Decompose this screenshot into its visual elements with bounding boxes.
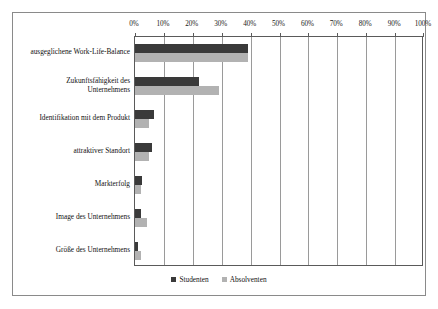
legend-swatch-icon bbox=[222, 277, 227, 282]
x-tick-label: 0% bbox=[129, 20, 138, 28]
x-axis-tick-labels: 0%10%20%30%40%50%60%70%80%90%100% bbox=[134, 20, 423, 34]
x-tick-label: 20% bbox=[185, 20, 198, 28]
bar-absolventen bbox=[135, 251, 141, 260]
legend-label: Absolventen bbox=[230, 275, 267, 284]
x-tick-label: 10% bbox=[156, 20, 169, 28]
bar-studenten bbox=[135, 44, 248, 53]
x-tick-label: 90% bbox=[388, 20, 401, 28]
category-label: Zukunftsfähigkeit des Unternehmens bbox=[23, 76, 130, 95]
x-tickmark bbox=[423, 33, 424, 37]
x-tick-label: 80% bbox=[359, 20, 372, 28]
legend-swatch-icon bbox=[171, 277, 176, 282]
bar-studenten bbox=[135, 242, 138, 251]
bar-absolventen bbox=[135, 218, 147, 227]
bar-rows bbox=[135, 37, 422, 265]
bar-absolventen bbox=[135, 86, 219, 95]
category-label: Größe des Unternehmens bbox=[23, 245, 130, 255]
category-label: Markterfolg bbox=[23, 179, 130, 189]
legend-entry: Studenten bbox=[171, 275, 208, 284]
bar-studenten bbox=[135, 209, 141, 218]
chart-legend: StudentenAbsolventen bbox=[13, 275, 425, 284]
x-tick-label: 30% bbox=[214, 20, 227, 28]
x-tick-label: 70% bbox=[330, 20, 343, 28]
x-tick-label: 60% bbox=[301, 20, 314, 28]
x-tick-label: 40% bbox=[243, 20, 256, 28]
legend-label: Studenten bbox=[179, 275, 208, 284]
category-label: attraktiver Standort bbox=[23, 146, 130, 156]
bar-group bbox=[135, 168, 422, 201]
bar-studenten bbox=[135, 110, 154, 119]
bar-studenten bbox=[135, 176, 142, 185]
bar-group bbox=[135, 103, 422, 136]
bar-group bbox=[135, 70, 422, 103]
bar-group bbox=[135, 201, 422, 234]
category-label: ausgeglichene Work-Life-Balance bbox=[23, 47, 130, 57]
bar-group bbox=[135, 37, 422, 70]
bar-group bbox=[135, 234, 422, 267]
bar-studenten bbox=[135, 143, 152, 152]
x-tick-label: 50% bbox=[272, 20, 285, 28]
bar-group bbox=[135, 136, 422, 169]
category-axis-labels: ausgeglichene Work-Life-BalanceZukunftsf… bbox=[23, 36, 130, 266]
plot-area bbox=[134, 36, 423, 266]
category-label: Image des Unternehmens bbox=[23, 212, 130, 222]
bar-absolventen bbox=[135, 119, 149, 128]
chart-figure: 0%10%20%30%40%50%60%70%80%90%100% ausgeg… bbox=[12, 12, 426, 296]
bar-absolventen bbox=[135, 152, 149, 161]
x-tick-label: 100% bbox=[415, 20, 431, 28]
bar-absolventen bbox=[135, 53, 248, 62]
legend-entry: Absolventen bbox=[222, 275, 267, 284]
bar-absolventen bbox=[135, 185, 141, 194]
bar-studenten bbox=[135, 77, 199, 86]
category-label: Identifikation mit dem Produkt bbox=[23, 113, 130, 123]
